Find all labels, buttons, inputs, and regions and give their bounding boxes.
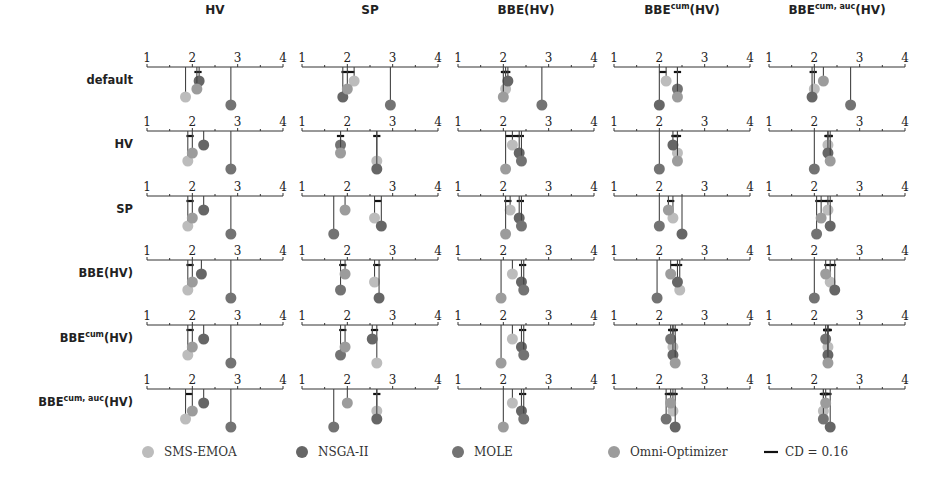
tick-label: 3	[545, 51, 553, 65]
tick-label: 2	[500, 309, 508, 323]
rank-marker-sms-emoa	[507, 334, 518, 345]
tick-label: 2	[500, 115, 508, 129]
critical-difference-chart: HVSPBBE(HV)BBEcum(HV)BBEcum, auc(HV) def…	[0, 0, 938, 487]
rank-marker-omni-optimizer	[498, 422, 509, 433]
panel-bbe-cum-auc-hv-sp: 1234	[298, 373, 442, 433]
tick-label: 3	[856, 115, 864, 129]
rank-marker-mole	[518, 414, 529, 425]
panel-bbe-cum-hv-bbe-cum-auc-hv: 1234	[765, 309, 909, 369]
tick-label: 4	[279, 309, 287, 323]
tick-label: 1	[298, 180, 306, 194]
tick-label: 1	[610, 115, 618, 129]
rank-marker-mole	[225, 358, 236, 369]
tick-label: 2	[656, 180, 664, 194]
tick-label: 3	[389, 180, 397, 194]
tick-label: 4	[434, 244, 442, 258]
tick-label: 1	[143, 244, 151, 258]
tick-label: 2	[189, 51, 197, 65]
tick-label: 1	[765, 180, 773, 194]
tick-label: 1	[610, 373, 618, 387]
rank-marker-mole	[654, 221, 665, 232]
rank-marker-nsga-ii	[829, 285, 840, 296]
tick-label: 2	[344, 244, 352, 258]
rank-marker-mole	[818, 414, 829, 425]
tick-label: 4	[590, 51, 598, 65]
panel-default-bbe-cum-hv: 1234	[610, 51, 754, 111]
legend-label-mole: MOLE	[474, 445, 513, 459]
tick-label: 3	[856, 51, 864, 65]
rank-marker-nsga-ii	[502, 76, 513, 87]
tick-label: 2	[189, 180, 197, 194]
tick-label: 1	[298, 115, 306, 129]
tick-label: 1	[298, 51, 306, 65]
tick-label: 4	[901, 51, 909, 65]
rank-marker-nsga-ii	[374, 293, 385, 304]
tick-label: 3	[234, 51, 242, 65]
rank-marker-sms-emoa	[369, 277, 380, 288]
rank-marker-omni-optimizer	[335, 148, 346, 159]
rank-marker-mole	[328, 422, 339, 433]
rank-marker-sms-emoa	[661, 76, 672, 87]
rank-marker-omni-optimizer	[187, 213, 198, 224]
tick-label: 2	[344, 115, 352, 129]
rank-marker-omni-optimizer	[816, 213, 827, 224]
rank-marker-omni-optimizer	[187, 277, 198, 288]
tick-label: 4	[279, 51, 287, 65]
panel-hv-bbe-cum-hv: 1234	[610, 115, 754, 175]
panel-hv-hv: 1234	[143, 115, 287, 175]
tick-label: 2	[500, 180, 508, 194]
tick-label: 4	[590, 115, 598, 129]
tick-label: 4	[901, 244, 909, 258]
panel-bbe-hv-bbe-cum-auc-hv: 1234	[765, 244, 909, 304]
legend-label-nsga-ii: NSGA-II	[318, 445, 369, 459]
tick-label: 3	[389, 115, 397, 129]
tick-label: 4	[746, 309, 754, 323]
tick-label: 4	[901, 115, 909, 129]
tick-label: 3	[389, 373, 397, 387]
row-label-sp: SP	[116, 202, 133, 216]
rank-marker-sms-emoa	[180, 92, 191, 103]
legend-marker-mole	[452, 446, 464, 458]
rank-marker-mole	[536, 100, 547, 111]
row-label-hv: HV	[114, 137, 133, 151]
rank-marker-mole	[809, 293, 820, 304]
rank-marker-omni-optimizer	[187, 148, 198, 159]
rank-marker-mole	[820, 334, 831, 345]
panel-bbe-cum-auc-hv-bbe-hv: 1234	[454, 373, 598, 433]
tick-label: 3	[701, 244, 709, 258]
rank-marker-mole	[225, 422, 236, 433]
tick-label: 1	[454, 244, 462, 258]
tick-label: 1	[298, 373, 306, 387]
tick-label: 4	[590, 244, 598, 258]
tick-label: 4	[434, 51, 442, 65]
tick-label: 4	[746, 244, 754, 258]
column-title-sp: SP	[361, 3, 379, 17]
tick-label: 2	[189, 115, 197, 129]
legend-marker-nsga-ii	[296, 446, 308, 458]
tick-label: 4	[279, 244, 287, 258]
rank-marker-mole	[385, 100, 396, 111]
panel-bbe-cum-auc-hv-bbe-cum-auc-hv: 1234	[765, 373, 909, 433]
tick-label: 1	[298, 309, 306, 323]
panel-bbe-hv-bbe-cum-hv: 1234	[610, 244, 754, 304]
tick-label: 1	[610, 244, 618, 258]
rank-marker-nsga-ii	[198, 334, 209, 345]
tick-label: 3	[545, 309, 553, 323]
legend-label-omni-optimizer: Omni-Optimizer	[630, 445, 728, 459]
tick-label: 4	[590, 180, 598, 194]
tick-label: 2	[189, 244, 197, 258]
tick-label: 1	[610, 309, 618, 323]
rank-marker-mole	[335, 285, 346, 296]
panel-hv-bbe-hv: 1234	[454, 115, 598, 175]
rank-marker-mole	[518, 350, 529, 361]
tick-label: 4	[434, 180, 442, 194]
column-title-hv: HV	[205, 3, 225, 17]
tick-label: 3	[389, 244, 397, 258]
rank-marker-nsga-ii	[371, 414, 382, 425]
tick-label: 1	[143, 115, 151, 129]
tick-label: 4	[746, 51, 754, 65]
rank-marker-omni-optimizer	[340, 269, 351, 280]
tick-label: 4	[746, 115, 754, 129]
tick-label: 2	[344, 51, 352, 65]
rank-marker-nsga-ii	[670, 422, 681, 433]
